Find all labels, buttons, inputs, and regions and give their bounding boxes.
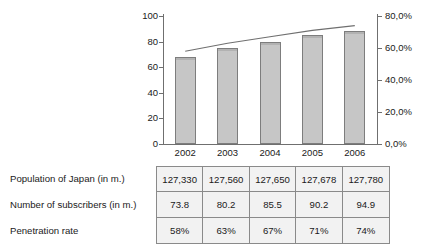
y-axis-right-tick-label: 60,0% [385, 43, 412, 53]
y-axis-left-tick-label: 20 [147, 113, 158, 123]
table-cell: 94.9 [343, 192, 389, 217]
table-row-label: Population of Japan (in m.) [10, 166, 156, 192]
x-axis-label-2004: 2004 [249, 147, 291, 158]
table-cell: 71% [296, 218, 342, 243]
y-axis-right-tick-label: 20,0% [385, 107, 412, 117]
table-cell: 127,560 [203, 167, 249, 192]
y-axis-right-tick [378, 144, 382, 145]
combo-chart: 020406080100 0,0%20,0%40,0%60,0%80,0% 20… [0, 0, 444, 165]
y-axis-right-tick [378, 16, 382, 17]
table-cell: 67% [250, 218, 296, 243]
table-cell: 127,650 [250, 167, 296, 192]
x-axis-label-2002: 2002 [164, 147, 206, 158]
y-axis-left-tick [159, 42, 163, 43]
y-axis-left-tick-label: 0 [153, 139, 158, 149]
table-grid: 127,330127,560127,650127,678127,78073.88… [156, 166, 390, 244]
x-axis-line [163, 144, 378, 145]
table-cell: 74% [343, 218, 389, 243]
table-cell: 80.2 [203, 192, 249, 217]
table-cell: 127,780 [343, 167, 389, 192]
table-row-label: Penetration rate [10, 218, 156, 244]
y-axis-left-tick [159, 118, 163, 119]
table-row-labels: Population of Japan (in m.)Number of sub… [10, 166, 156, 244]
y-axis-left-tick [159, 67, 163, 68]
table-cell: 73.8 [157, 192, 203, 217]
y-axis-right-tick-label: 80,0% [385, 11, 412, 21]
y-axis-left-tick [159, 93, 163, 94]
x-axis-label-2003: 2003 [207, 147, 249, 158]
chart-page: 020406080100 0,0%20,0%40,0%60,0%80,0% 20… [0, 0, 444, 251]
y-axis-left-tick-label: 60 [147, 62, 158, 72]
table-cell: 58% [157, 218, 203, 243]
y-axis-left-tick-label: 80 [147, 37, 158, 47]
y-axis-left-tick-label: 40 [147, 88, 158, 98]
y-axis-right-tick [378, 48, 382, 49]
table-cell: 85.5 [250, 192, 296, 217]
y-axis-right-tick [378, 112, 382, 113]
y-axis-left-tick [159, 16, 163, 17]
data-table: Population of Japan (in m.)Number of sub… [0, 166, 444, 251]
table-cell: 127,678 [296, 167, 342, 192]
penetration-rate-line [164, 16, 376, 144]
x-axis-label-2005: 2005 [291, 147, 333, 158]
penetration-rate-polyline [185, 26, 355, 52]
table-cell: 63% [203, 218, 249, 243]
table-row-label: Number of subscribers (in m.) [10, 192, 156, 218]
y-axis-left-tick-label: 100 [142, 11, 158, 21]
table-cell: 90.2 [296, 192, 342, 217]
y-axis-right-tick-label: 0,0% [385, 139, 407, 149]
y-axis-right-tick-label: 40,0% [385, 75, 412, 85]
y-axis-left-tick [159, 144, 163, 145]
x-axis-label-2006: 2006 [334, 147, 376, 158]
table-cell: 127,330 [157, 167, 203, 192]
y-axis-right-tick [378, 80, 382, 81]
